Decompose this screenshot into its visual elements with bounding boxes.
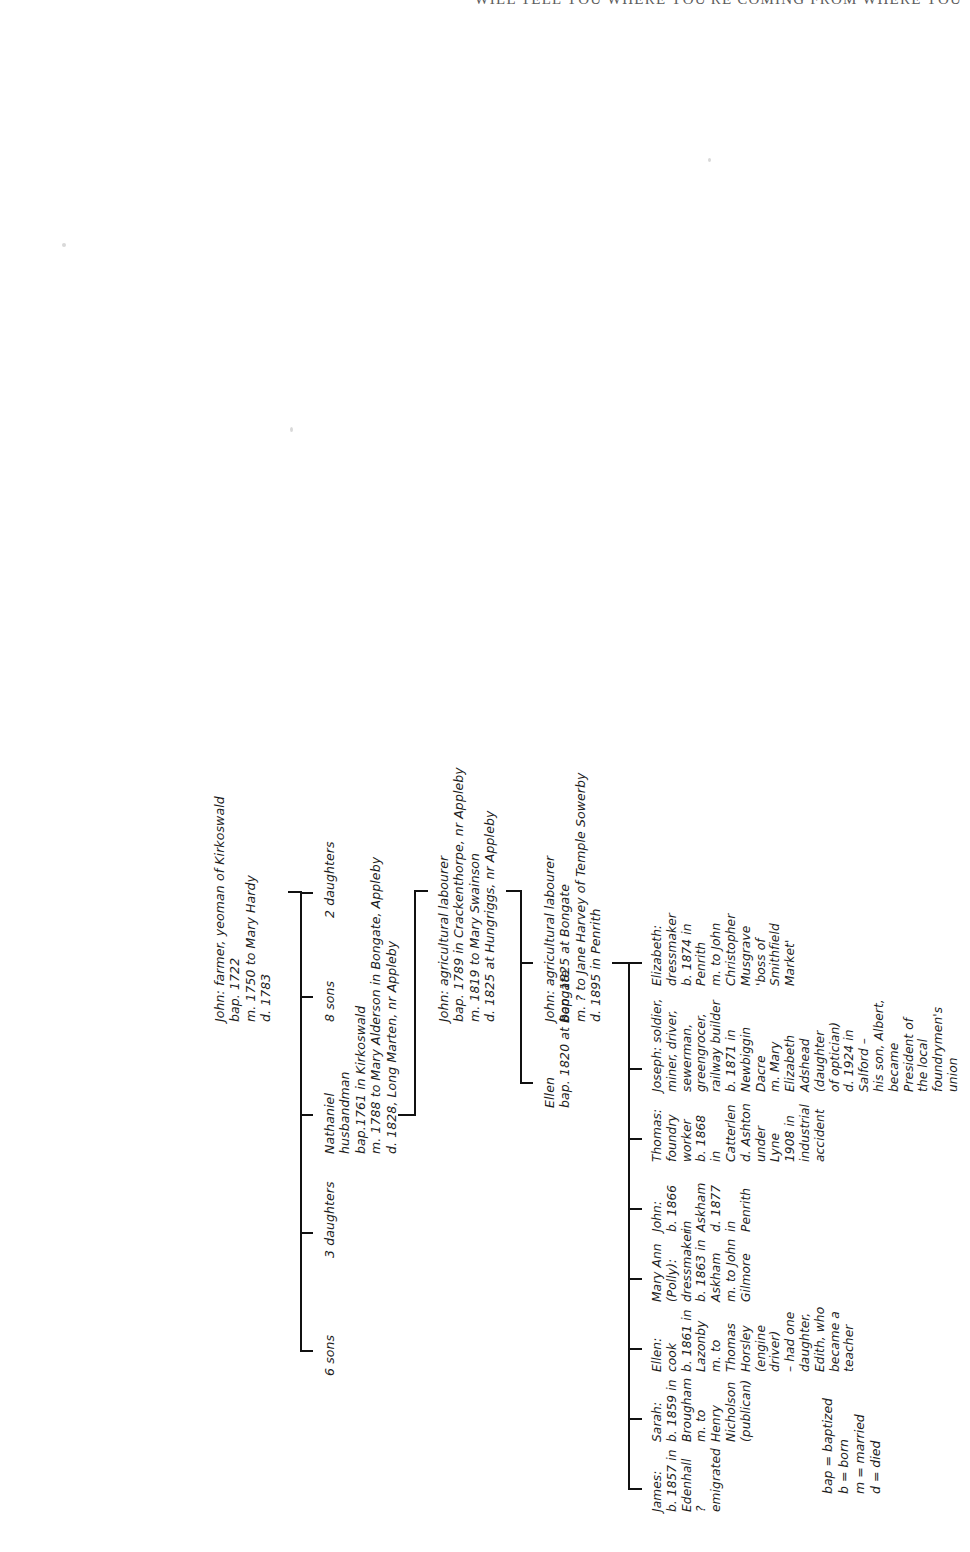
- node-child-elizabeth: Elizabeth: dressmaker b. 1874 in Penrith…: [650, 890, 798, 986]
- node-child-sarah: Sarah: b. 1859 in Brougham m. to Henry N…: [650, 1378, 754, 1442]
- node-child-thomas: Thomas: foundry worker b. 1868 in Catter…: [650, 1102, 828, 1162]
- node-john-ag-labourer-crackenthorpe: John: agricultural labourer bap. 1789 in…: [436, 767, 498, 1022]
- connector-gen4-spine: [520, 890, 522, 1084]
- node-child-john: John: b. 1866 in Askham d. 1877 in Penri…: [650, 1172, 754, 1232]
- connector-gen4-tick-ellen: [520, 1082, 533, 1084]
- connector-gen5-tick-mary-ann: [628, 1278, 642, 1280]
- scan-speck: [290, 427, 293, 432]
- connector-gen2-tick-three-daughters: [300, 1232, 313, 1234]
- node-six-sons: 6 sons: [322, 1335, 337, 1376]
- node-two-daughters: 2 daughters: [322, 841, 337, 918]
- connector-gen5-tick-thomas: [628, 1138, 642, 1140]
- connector-gen2-spine: [300, 892, 302, 1352]
- node-eight-sons: 8 sons: [322, 981, 337, 1022]
- family-tree-diagram: bap = baptized b = born m = married d = …: [0, 0, 970, 1552]
- connector-gen5-tick-james: [628, 1488, 642, 1490]
- connector-gen3-spine: [414, 890, 416, 1116]
- scan-speck: [62, 243, 66, 247]
- connector-gen2-tick-eight-sons: [300, 996, 313, 998]
- connector-gen2-tick-six-sons: [300, 1350, 313, 1352]
- connector-gen2-tick-two-daughters: [300, 892, 313, 894]
- key-legend: bap = baptized b = born m = married d = …: [820, 1398, 884, 1494]
- node-child-ellen: Ellen: cook b. 1861 in Lazonby m. to Tho…: [650, 1306, 857, 1372]
- connector-gen5-tick-ellen: [628, 1348, 642, 1350]
- connector-gen5-tick-sarah: [628, 1418, 642, 1420]
- connector-gen2-tick-nathaniel: [300, 1114, 313, 1116]
- node-child-joseph: Joseph: soldier, miner, driver, sewerman…: [650, 996, 961, 1092]
- connector-gen4-tick-john: [520, 962, 533, 964]
- node-child-james: James: b. 1857 in Edenhall ? emigrated: [650, 1448, 724, 1512]
- family-tree-canvas: bap = baptized b = born m = married d = …: [0, 0, 970, 1552]
- connector-gen5-spine: [628, 962, 630, 1490]
- connector-gen3-tick-john: [414, 890, 428, 892]
- node-child-mary-ann: Mary Ann (Polly): dressmaker b. 1863 in …: [650, 1238, 754, 1302]
- connector-gen5-tick-joseph: [628, 1068, 642, 1070]
- connector-gen5-tick-john: [628, 1208, 642, 1210]
- node-three-daughters: 3 daughters: [322, 1181, 337, 1258]
- scan-speck: [708, 158, 711, 162]
- connector-gen5-tick-elizabeth: [628, 962, 642, 964]
- node-john-ag-labourer-bongate: John: agricultural labourer bap. 1825 at…: [542, 772, 604, 1022]
- node-john-farmer-yeoman: John: farmer, yeoman of Kirkoswald bap. …: [212, 796, 274, 1022]
